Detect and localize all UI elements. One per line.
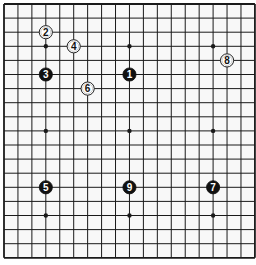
stone-white-move-4[interactable]: 4: [67, 40, 80, 53]
star-point-icon: [44, 129, 48, 133]
stone-black-move-5[interactable]: 5: [39, 181, 52, 194]
stone-white-move-6[interactable]: 6: [81, 82, 94, 95]
go-board-canvas[interactable]: 123456789: [0, 0, 256, 265]
star-point-icon: [127, 213, 131, 217]
stone-white-move-8[interactable]: 8: [220, 54, 233, 67]
move-number: 4: [71, 41, 77, 52]
star-point-icon: [211, 213, 215, 217]
star-point-icon: [211, 44, 215, 48]
move-number: 6: [85, 83, 91, 94]
star-point-icon: [211, 129, 215, 133]
stone-black-move-3[interactable]: 3: [39, 68, 52, 81]
move-number: 1: [127, 69, 133, 80]
stone-black-move-7[interactable]: 7: [207, 181, 220, 194]
move-number: 2: [43, 27, 49, 38]
move-number: 3: [43, 69, 49, 80]
star-point-icon: [127, 129, 131, 133]
move-number: 7: [210, 182, 216, 193]
star-point-icon: [127, 44, 131, 48]
go-board[interactable]: 123456789: [0, 0, 256, 265]
stone-white-move-2[interactable]: 2: [39, 26, 52, 39]
stone-black-move-9[interactable]: 9: [123, 181, 136, 194]
move-number: 5: [43, 182, 49, 193]
stone-black-move-1[interactable]: 1: [123, 68, 136, 81]
star-point-icon: [44, 213, 48, 217]
move-number: 9: [127, 182, 133, 193]
move-number: 8: [224, 55, 230, 66]
star-point-icon: [44, 44, 48, 48]
